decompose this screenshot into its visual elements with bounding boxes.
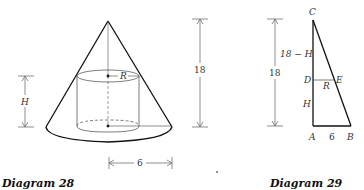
cone-right-side [108, 21, 172, 127]
vertex-a: A [308, 132, 316, 142]
diagram-29: C D E A B 18 − H R H 6 18 Diagram 29 [267, 7, 354, 190]
diagram-28: R H 18 6 Diagram 28 [1, 19, 218, 190]
side-cb [313, 20, 351, 126]
label-6: 6 [137, 158, 143, 168]
vertex-c: C [309, 7, 316, 17]
vertex-e: E [335, 75, 343, 85]
label-h-29: H [302, 99, 311, 109]
vertex-b: B [346, 132, 354, 142]
stray-dot [216, 171, 218, 173]
vertex-d: D [303, 75, 311, 85]
label-r: R [119, 71, 127, 81]
diagram-canvas: R H 18 6 Diagram 28 [0, 0, 364, 190]
caption-diagram-29: Diagram 29 [269, 177, 343, 190]
label-18-minus-h: 18 − H [280, 49, 313, 59]
cone-base-arc [46, 127, 172, 142]
label-18: 18 [194, 65, 206, 75]
label-r-29: R [322, 81, 330, 91]
caption-diagram-28: Diagram 28 [1, 177, 75, 190]
label-h: H [20, 97, 29, 107]
label-18-29: 18 [269, 68, 281, 78]
label-6-29: 6 [329, 132, 335, 142]
